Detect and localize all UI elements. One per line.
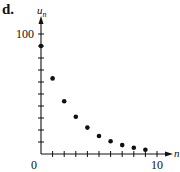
data-point (97, 134, 102, 139)
x-axis-label: n (174, 147, 180, 159)
data-point (74, 115, 79, 120)
sequence-scatter-plot: 100010unn (0, 0, 180, 172)
data-point (62, 99, 67, 104)
data-point (85, 125, 90, 130)
data-point (120, 143, 125, 148)
x-tick-label: 0 (31, 158, 37, 172)
y-axis-label: un (37, 4, 47, 19)
data-point (108, 139, 113, 144)
data-point (50, 76, 55, 81)
data-point (143, 147, 148, 152)
y-tick-label: 100 (16, 27, 34, 41)
data-point (39, 44, 44, 49)
data-point (132, 145, 137, 150)
x-tick-label: 10 (151, 158, 163, 172)
x-axis-arrow-icon (165, 152, 173, 157)
